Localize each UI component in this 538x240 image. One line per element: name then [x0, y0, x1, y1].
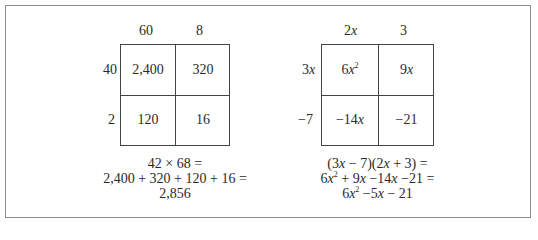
equation-line: 6x2 + 9x −14x −21 =	[300, 171, 455, 186]
row-header: 40	[103, 62, 117, 78]
equation-line: 42 × 68 =	[80, 156, 270, 171]
variable: x	[407, 62, 413, 77]
equation-line: 2,856	[80, 186, 270, 201]
variable: x	[309, 62, 315, 77]
coefficient: −21	[396, 112, 418, 127]
coefficient: −7	[298, 112, 313, 127]
product-cell: 9x	[379, 62, 434, 78]
variable: x	[351, 23, 357, 38]
column-header: 2x	[344, 23, 357, 39]
coefficient: 9	[400, 62, 407, 77]
coefficient: 3	[302, 62, 309, 77]
product-cell: 120	[121, 112, 175, 128]
coefficient: 3	[400, 23, 407, 38]
column-header: 3	[400, 23, 407, 39]
grid-divider-horizontal	[121, 95, 229, 96]
row-header: 3x	[302, 62, 315, 78]
equation-line: (3x − 7)(2x + 3) =	[300, 156, 455, 171]
column-header: 60	[139, 23, 153, 39]
coefficient: −14	[336, 112, 358, 127]
product-cell: 16	[176, 112, 230, 128]
coefficient: 2	[344, 23, 351, 38]
equation-line: 6x2 −5x − 21	[300, 186, 455, 201]
column-header: 8	[196, 23, 203, 39]
product-cell: 2,400	[121, 62, 175, 78]
grid-divider-horizontal	[322, 95, 433, 96]
exponent: 2	[355, 61, 359, 70]
equation-line: 2,400 + 320 + 120 + 16 =	[80, 171, 270, 186]
area-grid: 2,400 320 120 16	[120, 44, 230, 146]
variable: x	[358, 112, 364, 127]
product-cell: 320	[176, 62, 230, 78]
product-cell: 6x2	[322, 62, 378, 78]
product-cell: −21	[379, 112, 434, 128]
area-grid: 6x2 9x −14x −21	[321, 44, 434, 146]
product-cell: −14x	[322, 112, 378, 128]
row-header: 2	[108, 112, 115, 128]
row-header: −7	[298, 112, 313, 128]
